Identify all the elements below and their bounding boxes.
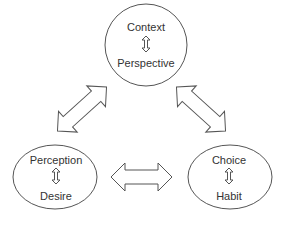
double-arrow-horizontal-icon [111, 163, 172, 191]
node-left-primary-label: Perception [11, 154, 101, 166]
node-top-primary-label: Context [101, 21, 191, 33]
node-left-secondary-label: Desire [11, 190, 101, 202]
node-right-primary-label: Choice [184, 154, 274, 166]
double-arrow-diagonal-left-icon [48, 77, 116, 142]
node-top-secondary-label: Perspective [101, 57, 191, 69]
node-right-secondary-label: Habit [184, 190, 274, 202]
double-arrow-diagonal-right-icon [167, 77, 235, 142]
